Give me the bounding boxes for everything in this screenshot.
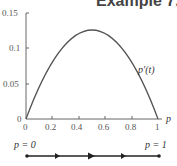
- svg-text:0.6: 0.6: [98, 122, 110, 132]
- svg-text:p: p: [165, 113, 171, 124]
- svg-text:0.05: 0.05: [3, 79, 19, 89]
- svg-text:0.1: 0.1: [9, 43, 20, 53]
- svg-text:1: 1: [155, 122, 160, 132]
- svg-text:0: 0: [23, 122, 28, 132]
- svg-text:0.2: 0.2: [45, 122, 56, 132]
- curve-label: p′(t): [137, 64, 155, 76]
- svg-text:0: 0: [17, 114, 22, 124]
- svg-text:p = 1: p = 1: [144, 139, 167, 150]
- chart: 0.15 0.1 0.05 0 0 0.2 0.4 0.6 0.8 1 p p′…: [0, 0, 177, 166]
- y-ticks: 0.15 0.1 0.05 0: [2, 8, 29, 124]
- svg-text:0.4: 0.4: [71, 122, 83, 132]
- svg-text:0.8: 0.8: [125, 122, 137, 132]
- svg-text:p = 0: p = 0: [13, 139, 36, 150]
- x-ticks: 0 0.2 0.4 0.6 0.8 1 p: [23, 113, 171, 132]
- phase-line: p = 0 p = 1: [13, 139, 167, 160]
- svg-text:0.15: 0.15: [2, 8, 18, 18]
